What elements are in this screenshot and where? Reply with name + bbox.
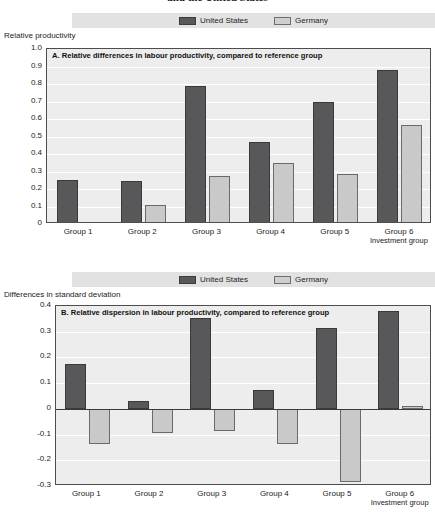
bar-united-states bbox=[121, 181, 142, 223]
legend-label-united-states: United States bbox=[200, 17, 248, 25]
bar-united-states bbox=[190, 318, 211, 409]
y-axis-tick-label: 0.4 bbox=[16, 149, 42, 157]
bar-germany bbox=[89, 409, 110, 444]
bar-germany bbox=[145, 205, 166, 223]
legend-swatch-united-states-icon bbox=[179, 17, 196, 25]
gridline bbox=[47, 67, 430, 68]
y-axis-tick-label: 0 bbox=[25, 404, 51, 412]
y-axis-tick-label: 0.2 bbox=[25, 352, 51, 360]
zero-axis-line bbox=[56, 409, 430, 410]
gridline bbox=[56, 460, 430, 461]
y-axis-tick-label: -0.1 bbox=[25, 430, 51, 438]
x-axis-label: Investment group bbox=[360, 498, 435, 507]
gridline bbox=[47, 119, 430, 120]
legend-label-germany-b: Germany bbox=[295, 276, 328, 284]
x-axis-tick-label: Group 3 bbox=[172, 227, 240, 236]
gridline bbox=[47, 207, 430, 208]
gridline bbox=[56, 383, 430, 384]
x-axis-tick-label: Group 4 bbox=[240, 489, 308, 498]
bar-germany bbox=[401, 125, 422, 223]
x-axis-tick-label: Group 1 bbox=[44, 227, 112, 236]
bar-germany bbox=[273, 163, 294, 223]
x-axis-tick-label: Group 2 bbox=[108, 227, 176, 236]
bar-united-states bbox=[185, 86, 206, 223]
x-axis-tick-label: Group 5 bbox=[301, 227, 369, 236]
bar-united-states bbox=[253, 390, 274, 409]
legend-chart-b: United States Germany bbox=[72, 272, 435, 287]
bar-germany bbox=[152, 409, 173, 433]
gridline bbox=[56, 435, 430, 436]
bar-united-states bbox=[316, 328, 337, 409]
y-axis-caption-chart-b: Differences in standard deviation bbox=[4, 290, 120, 299]
bar-united-states bbox=[313, 102, 334, 224]
y-axis-tick-label: 0.3 bbox=[16, 167, 42, 175]
y-axis-tick-label: 0.6 bbox=[16, 114, 42, 122]
y-axis-tick-label: 0 bbox=[16, 219, 42, 227]
x-axis-tick-label: Group 3 bbox=[178, 489, 246, 498]
bar-united-states bbox=[128, 401, 149, 409]
gridline bbox=[56, 332, 430, 333]
y-axis-caption-chart-a: Relative productivity bbox=[4, 31, 76, 40]
y-axis-tick-label: 0.1 bbox=[16, 202, 42, 210]
x-axis-tick-label: Group 6 bbox=[366, 489, 434, 498]
legend-swatch-germany-icon bbox=[274, 17, 291, 25]
bar-united-states bbox=[378, 311, 399, 409]
y-axis-tick-label: 1.0 bbox=[16, 44, 42, 52]
bar-united-states bbox=[57, 180, 78, 223]
x-axis-tick-label: Group 4 bbox=[237, 227, 305, 236]
bar-united-states bbox=[249, 142, 270, 223]
y-axis-tick-label: 0.9 bbox=[16, 62, 42, 70]
legend-item-united-states: United States bbox=[179, 17, 248, 25]
chart-a-plot-area: A. Relative differences in labour produc… bbox=[46, 48, 431, 223]
legend-label-united-states-b: United States bbox=[200, 276, 248, 284]
gridline bbox=[56, 357, 430, 358]
y-axis-tick-label: 0.5 bbox=[16, 132, 42, 140]
legend-label-germany: Germany bbox=[295, 17, 328, 25]
figure-page: and the United States United States Germ… bbox=[0, 0, 435, 518]
chart-b-title: B. Relative dispersion in labour product… bbox=[61, 308, 329, 317]
y-axis-tick-label: 0.3 bbox=[25, 327, 51, 335]
x-axis-label: Investment group bbox=[359, 236, 435, 245]
chart-b-plot-area: B. Relative dispersion in labour product… bbox=[55, 305, 431, 485]
y-axis-tick-label: 0.7 bbox=[16, 97, 42, 105]
bar-united-states bbox=[377, 70, 398, 223]
bar-germany bbox=[340, 409, 361, 482]
y-axis-tick-label: 0.2 bbox=[16, 184, 42, 192]
gridline bbox=[47, 154, 430, 155]
bar-united-states bbox=[65, 364, 86, 409]
y-axis-tick-label: 0.4 bbox=[25, 301, 51, 309]
bar-germany bbox=[337, 174, 358, 223]
y-axis-tick-label: -0.2 bbox=[25, 455, 51, 463]
gridline bbox=[47, 189, 430, 190]
x-axis-tick-label: Group 2 bbox=[115, 489, 183, 498]
bar-germany bbox=[277, 409, 298, 444]
chart-a-title: A. Relative differences in labour produc… bbox=[52, 51, 322, 60]
legend-item-germany-b: Germany bbox=[274, 276, 328, 284]
x-axis-tick-label: Group 1 bbox=[52, 489, 120, 498]
document-title: and the United States bbox=[0, 0, 435, 3]
y-axis-tick-label: 0.8 bbox=[16, 79, 42, 87]
legend-swatch-united-states-icon bbox=[179, 276, 196, 284]
y-axis-tick-label: -0.3 bbox=[25, 481, 51, 489]
x-axis-tick-label: Group 6 bbox=[365, 227, 433, 236]
bar-germany bbox=[209, 176, 230, 223]
y-axis-tick-label: 0.1 bbox=[25, 378, 51, 386]
gridline bbox=[47, 102, 430, 103]
gridline bbox=[47, 172, 430, 173]
legend-item-united-states-b: United States bbox=[179, 276, 248, 284]
bar-germany bbox=[214, 409, 235, 431]
legend-swatch-germany-icon bbox=[274, 276, 291, 284]
gridline bbox=[47, 84, 430, 85]
legend-item-germany: Germany bbox=[274, 17, 328, 25]
legend-chart-a: United States Germany bbox=[72, 13, 435, 28]
bar-germany bbox=[81, 222, 102, 223]
gridline bbox=[47, 137, 430, 138]
x-axis-tick-label: Group 5 bbox=[303, 489, 371, 498]
